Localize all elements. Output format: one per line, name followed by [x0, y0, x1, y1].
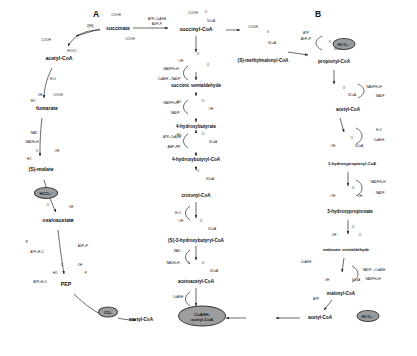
cofactor-atp-pyr: ATP+H₂O: [33, 281, 46, 284]
atom-hooc-fumarate-2: HOOC: [67, 50, 76, 53]
atom-ho-malate: HO: [31, 100, 36, 103]
node-co2-bottom-label: CO₂: [104, 310, 112, 315]
node-hco3-left: HCO₃⁻: [34, 187, 58, 199]
atom-o-acetoacetyl-2: O: [202, 262, 204, 265]
atom-o-propionyl: O: [329, 41, 331, 44]
atom-o-succinyl: O: [205, 11, 207, 14]
node-hco3-top-right: HCO₃⁻: [333, 38, 356, 50]
atom-cooh-methylmalonyl: COOH: [248, 26, 257, 29]
atom-oh-pyruvate: OH: [78, 264, 83, 267]
atom-o-4hb: O: [202, 100, 204, 103]
cofactor-coash-left-b: CoASH: [301, 261, 311, 264]
cofactor-nadh-h: NADH+H⁺: [167, 262, 182, 265]
cofactor-atp-bottom-b: ATP: [313, 298, 319, 301]
node-hco3-left-label: HCO₃⁻: [39, 191, 52, 196]
node-coash-acetyl-coa-center-label: CoASH, acetyl-CoA: [191, 311, 213, 321]
atom-scoa-4hbcoa: SCoA: [209, 141, 217, 144]
atom-scoa-crotonyl: SCoA: [206, 178, 214, 181]
metabolite-4-hydroxybutyrate: 4-hydroxybutyrate: [176, 125, 216, 130]
cofactor-nad-malate: NAD⁺: [31, 132, 40, 135]
metabolite-malonate-semialdehyde: malonate semialdehyde: [323, 248, 369, 252]
atom-oh2-3hp: OH: [358, 195, 363, 198]
node-co2-bottom: CO₂: [98, 307, 118, 318]
atom-o-methylmalonyl: O: [267, 31, 269, 34]
atom-o-crotonyl: O: [197, 170, 199, 173]
atom-o-pep: O: [47, 204, 49, 207]
metabolite-propionyl-coa: propionyl-CoA: [318, 60, 350, 65]
atom-oh-4hb: OH: [209, 108, 214, 111]
cofactor-nadph-top: NADPH+H⁺: [164, 68, 181, 71]
metabolite-pyruvate: PEP: [61, 282, 71, 287]
cofactor-nadph-b1: NADPH+H⁺: [367, 86, 384, 89]
atom-scoa-malonyl: SCoA: [352, 279, 360, 282]
metabolite-pep: oxaloacetate: [42, 218, 73, 223]
atom-cooh-malate: COOH: [53, 94, 62, 97]
metabolite-3-hydroxybutyryl-coa: (S)-3-hydroxybutyryl-CoA: [168, 239, 224, 244]
node-hco3-bottom-right-label: HCO₃⁻: [361, 314, 374, 319]
cofactor-nadph-b2: NADPH+H⁺: [371, 181, 388, 184]
atom-cooh-succinyl: COOH: [188, 12, 197, 15]
cofactor-amp-ppi: AMP+PPᵢ: [167, 146, 180, 149]
cofactor-atp-b: ATP: [303, 32, 309, 35]
cofactor-nadh-malate: NADH+H⁺: [26, 141, 41, 144]
atom-oh-3hpcoa: OH: [331, 145, 336, 148]
atom-oh-malonate-semialdehyde: OH: [332, 234, 337, 237]
atom-ho-oxaloacetate: HO: [27, 158, 32, 161]
metabolite-acetoacetyl-coa: acetoacetyl-CoA: [178, 280, 214, 285]
cofactor-nadph-b3: NADPH+H⁺: [366, 278, 383, 281]
metabolite-fumarate: acetyl-CoA: [45, 56, 72, 61]
cofactor-2h-fumarate: 2[H]: [87, 25, 94, 29]
metabolite-succinic-semialdehyde: succinic semialdehyde: [171, 84, 221, 89]
atom-scoa-3hpcoa: SCoA: [355, 145, 363, 148]
atom-cooh-succinate-1: COOH: [111, 14, 120, 17]
cofactor-pi-pyr: Pᵢ: [85, 272, 88, 275]
atom-o-ss1: O: [197, 53, 199, 56]
atom-scoa-methylmalonyl: SCoA: [268, 42, 276, 45]
atom-ho-pyruvate: HO: [53, 272, 58, 275]
cofactor-nadp-coash-b3: NADP⁺+CoASH: [363, 269, 386, 272]
atom-ho-4hb: HO: [177, 101, 182, 104]
metabolite-acetyl-coa-bottom-right: acetyl-CoA: [308, 316, 332, 321]
atom-ho-4hbcoa: HO: [177, 134, 182, 137]
cofactor-pi-pep: Pᵢ: [26, 241, 29, 244]
atom-p-pep: P: [71, 220, 73, 223]
atom-o-3hp: O: [352, 187, 354, 190]
atom-o-ms1: O: [352, 226, 354, 229]
cofactor-nad-plus: NAD⁺: [174, 250, 183, 253]
metabolite-3-hydroxypropionyl-coa: 3-hydroxypropionyl-CoA: [328, 162, 376, 166]
cofactor-nadp-b1: NADP⁺: [376, 95, 387, 98]
node-hco3-top-right-label: HCO₃⁻: [337, 42, 350, 47]
panel-label-a: A: [93, 10, 99, 19]
node-hco3-bottom-right: HCO₃⁻: [357, 310, 380, 322]
atom-o-pyruvate: O: [61, 264, 63, 267]
cofactor-coash-bottom: CoASH: [173, 296, 183, 299]
metabolite-acetyl-coa-right: acetyl-CoA: [336, 108, 360, 113]
atom-o-3hbcoa: O: [200, 220, 202, 223]
cofactor-atp-pep: ATP+H₂O: [30, 251, 43, 254]
atom-o-ss2: O: [207, 64, 209, 67]
atom-o-acetoacetyl-1: O: [188, 262, 190, 265]
atom-scoa-succinyl: SCoA: [207, 20, 215, 23]
cofactor-h2o-malate: H₂O: [50, 78, 56, 81]
atom-o-3hpcoa: O: [351, 137, 353, 140]
atom-oh-pep: OH: [69, 206, 74, 209]
cofactor-adp-pi-top: ADP+Pᵢ: [152, 23, 163, 26]
cofactor-adp-pi-pep: ADP+Pᵢ: [78, 245, 89, 248]
cofactor-h2o-b: H₂O: [376, 129, 382, 132]
atom-scoa-3hbcoa: SCoA: [208, 228, 216, 231]
cofactor-h2o-crotonyl: H₂O: [175, 212, 181, 215]
metabolite-succinyl-coa: succinyl-CoA: [179, 27, 212, 32]
metabolite-acetyl-coa-bottom-left: acetyl-CoA: [129, 318, 153, 323]
atom-oh-oxaloacetate: OH: [55, 150, 60, 153]
cofactor-nadp-2: NADP⁺: [171, 112, 182, 115]
atom-o-ms2: O: [359, 234, 361, 237]
metabolite-4-hydroxybutyryl-coa: 4-hydroxybutyryl-CoA: [172, 158, 220, 163]
cofactor-nadp-b2: NADP⁺: [376, 192, 387, 195]
atom-oh-succinic-semialdehyde: OH: [179, 60, 184, 63]
atom-o-acryloyl: O: [343, 87, 345, 90]
atom-oh-3hbcoa: OH: [179, 220, 184, 223]
metabolite-crotonyl-coa: crotonyl-CoA: [181, 194, 210, 199]
panel-label-b: B: [315, 10, 321, 19]
metabolite-s-malate: fumarate: [36, 106, 58, 111]
cofactor-coash-nadp: CoASH + NADP⁺: [158, 78, 182, 81]
